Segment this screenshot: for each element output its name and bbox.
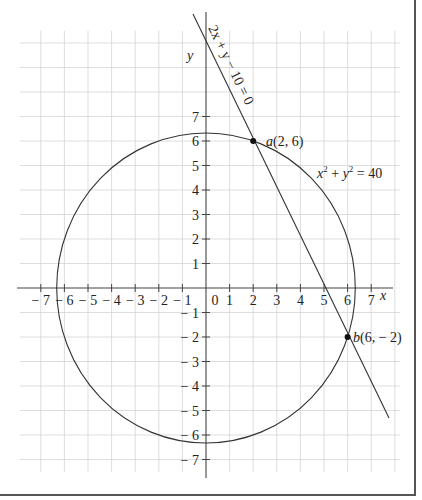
point-a-marker — [250, 138, 256, 144]
y-tick-label: − 3 — [181, 355, 199, 370]
y-tick-label: 3 — [192, 208, 199, 223]
point-b-label: b(6, − 2) — [353, 330, 402, 346]
x-tick-label: 0 — [212, 293, 219, 308]
y-tick-label: 6 — [192, 134, 199, 149]
point-b-marker — [345, 334, 351, 340]
line-curve — [193, 14, 389, 418]
y-tick-label: − 7 — [181, 453, 199, 468]
x-tick-label: − 4 — [102, 293, 120, 308]
y-tick-label: − 2 — [181, 330, 199, 345]
x-tick-label: 2 — [250, 293, 257, 308]
y-tick-label: 7 — [192, 110, 199, 125]
x-tick-label: 4 — [297, 293, 304, 308]
x-tick-label: − 6 — [55, 293, 73, 308]
y-tick-label: − 6 — [181, 428, 199, 443]
x-tick-label: 5 — [321, 293, 328, 308]
point-a-label: a(2, 6) — [266, 134, 304, 150]
x-tick-label: − 2 — [150, 293, 168, 308]
x-tick-label: − 5 — [79, 293, 97, 308]
circle-equation-label: x2 + y2 = 40 — [316, 164, 382, 181]
grid — [20, 31, 400, 472]
x-tick-label: − 7 — [32, 293, 50, 308]
diagram-frame: a(2, 6) b(6, − 2) x2 + y2 = 40 2x + y − … — [0, 0, 422, 500]
y-tick-label: − 1 — [181, 306, 199, 321]
y-tick-label: 1 — [192, 257, 199, 272]
x-tick-label: − 3 — [126, 293, 144, 308]
x-tick-label: 3 — [273, 293, 280, 308]
x-tick-label: 1 — [226, 293, 233, 308]
y-tick-label: − 5 — [181, 404, 199, 419]
x-axis-label: x — [379, 288, 387, 303]
x-tick-label: 6 — [344, 293, 351, 308]
y-axis-label: y — [185, 48, 194, 63]
x-tick-label: 7 — [368, 293, 375, 308]
y-tick-label: 5 — [192, 159, 199, 174]
y-tick-label: 4 — [192, 183, 199, 198]
y-tick-label: 2 — [192, 232, 199, 247]
diagram-canvas: a(2, 6) b(6, − 2) x2 + y2 = 40 2x + y − … — [0, 0, 422, 500]
y-tick-label: − 4 — [181, 379, 199, 394]
line-equation-label: 2x + y − 10 = 0 — [205, 23, 256, 107]
